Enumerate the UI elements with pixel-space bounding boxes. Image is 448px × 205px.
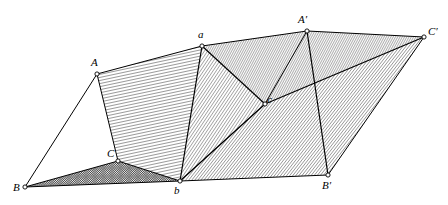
vertex-label-Bp: B′	[322, 179, 332, 191]
vertex-label-B: B	[13, 181, 20, 193]
vertex-label-Cp: C′	[428, 25, 438, 37]
diagram-canvas: ABCabcA′B′C′	[0, 0, 448, 205]
vertex-marker-A	[95, 72, 99, 76]
vertex-marker-Ap	[305, 29, 309, 33]
vertex-label-a: a	[198, 28, 204, 40]
vertex-label-Ap: A′	[297, 13, 308, 25]
geometry-figure: ABCabcA′B′C′	[0, 0, 448, 205]
vertex-label-b: b	[174, 184, 180, 196]
vertex-marker-B	[23, 185, 27, 189]
vertex-marker-Cp	[422, 35, 426, 39]
vertex-label-C: C	[107, 147, 115, 159]
vertex-label-c: c	[267, 93, 272, 105]
vertex-label-A: A	[90, 56, 98, 68]
vertex-marker-a	[200, 44, 204, 48]
vertex-marker-C	[116, 159, 120, 163]
faces-layer	[25, 31, 424, 187]
vertex-marker-b	[178, 179, 182, 183]
vertex-marker-Bp	[326, 173, 330, 177]
